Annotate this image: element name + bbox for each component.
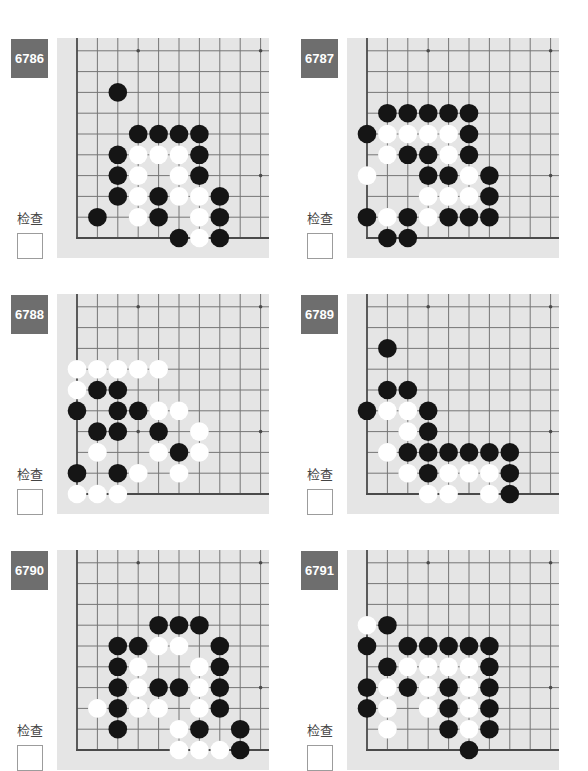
star-point-icon [259, 430, 263, 434]
white-stone [439, 146, 458, 165]
white-stone [190, 229, 209, 248]
black-stone [358, 402, 377, 421]
black-stone [439, 678, 458, 697]
black-stone [190, 146, 209, 165]
problem-card-6788: 6788 检查 [0, 294, 290, 514]
black-stone [170, 443, 189, 462]
black-stone [211, 637, 230, 656]
star-point-icon [549, 686, 553, 690]
black-stone [439, 208, 458, 227]
white-stone [460, 678, 479, 697]
white-stone [190, 187, 209, 206]
check-checkbox[interactable] [17, 233, 43, 259]
white-stone [149, 360, 168, 379]
board-grid[interactable] [57, 294, 269, 514]
white-stone [399, 402, 418, 421]
white-stone [358, 166, 377, 185]
black-stone [480, 208, 499, 227]
black-stone [68, 464, 87, 483]
black-stone [358, 699, 377, 718]
problem-card-6787: 6787 检查 [290, 38, 580, 258]
white-stone [419, 485, 438, 504]
black-stone [190, 616, 209, 635]
board-grid[interactable] [347, 550, 559, 770]
black-stone [190, 125, 209, 144]
check-checkbox[interactable] [17, 489, 43, 515]
black-stone [439, 104, 458, 123]
white-stone [419, 699, 438, 718]
problem-card-6786: 6786 检查 [0, 38, 290, 258]
check-label: 检查 [306, 467, 334, 483]
go-board[interactable] [57, 550, 269, 770]
white-stone [109, 360, 128, 379]
white-stone [190, 741, 209, 760]
board-grid[interactable] [347, 294, 559, 514]
black-stone [399, 208, 418, 227]
black-stone [460, 741, 479, 760]
black-stone [211, 208, 230, 227]
white-stone [399, 422, 418, 441]
check-label: 检查 [306, 723, 334, 739]
black-stone [480, 187, 499, 206]
black-stone [170, 678, 189, 697]
star-point-icon [426, 49, 430, 53]
black-stone [88, 208, 107, 227]
black-stone [149, 616, 168, 635]
check-checkbox[interactable] [307, 233, 333, 259]
black-stone [149, 187, 168, 206]
white-stone [129, 678, 148, 697]
white-stone [88, 360, 107, 379]
problem-number-badge: 6791 [301, 551, 338, 590]
black-stone [480, 678, 499, 697]
star-point-icon [259, 174, 263, 178]
board-grid[interactable] [347, 38, 559, 258]
board-grid[interactable] [57, 38, 269, 258]
board-grid[interactable] [57, 550, 269, 770]
black-stone [129, 637, 148, 656]
black-stone [211, 678, 230, 697]
black-stone [109, 381, 128, 400]
white-stone [149, 699, 168, 718]
check-checkbox[interactable] [17, 745, 43, 771]
check-checkbox[interactable] [307, 489, 333, 515]
white-stone [170, 720, 189, 739]
black-stone [211, 699, 230, 718]
white-stone [109, 485, 128, 504]
black-stone [501, 464, 520, 483]
black-stone [170, 229, 189, 248]
black-stone [109, 678, 128, 697]
problem-card-6789: 6789 检查 [290, 294, 580, 514]
star-point-icon [426, 561, 430, 565]
black-stone [378, 658, 397, 677]
star-point-icon [259, 686, 263, 690]
go-board[interactable] [57, 38, 269, 258]
black-stone [480, 166, 499, 185]
black-stone [419, 166, 438, 185]
go-board[interactable] [347, 294, 559, 514]
go-board[interactable] [347, 38, 559, 258]
white-stone [149, 146, 168, 165]
white-stone [88, 443, 107, 462]
black-stone [378, 339, 397, 358]
go-board[interactable] [347, 550, 559, 770]
white-stone [170, 187, 189, 206]
black-stone [480, 637, 499, 656]
black-stone [358, 208, 377, 227]
black-stone [399, 104, 418, 123]
white-stone [378, 720, 397, 739]
check-checkbox[interactable] [307, 745, 333, 771]
white-stone [460, 187, 479, 206]
go-board[interactable] [57, 294, 269, 514]
black-stone [109, 83, 128, 102]
black-stone [211, 229, 230, 248]
black-stone [439, 166, 458, 185]
white-stone [419, 125, 438, 144]
white-stone [460, 720, 479, 739]
white-stone [129, 208, 148, 227]
black-stone [419, 146, 438, 165]
black-stone [109, 720, 128, 739]
white-stone [419, 187, 438, 206]
black-stone [358, 637, 377, 656]
black-stone [419, 637, 438, 656]
black-stone [109, 166, 128, 185]
